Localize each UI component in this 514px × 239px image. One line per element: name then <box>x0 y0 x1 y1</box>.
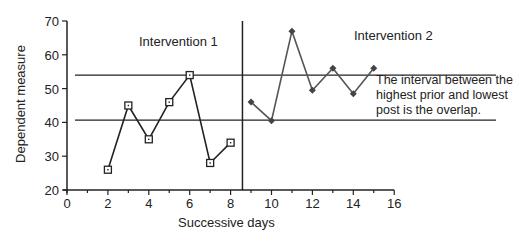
y-tick-label: 70 <box>45 14 59 29</box>
y-tick-label: 50 <box>45 82 59 97</box>
x-tick-label: 2 <box>104 196 111 211</box>
series-line <box>251 31 374 121</box>
y-axis-label: Dependent measure <box>13 45 28 163</box>
diamond-marker <box>288 28 295 35</box>
phase-2-label: Intervention 2 <box>354 28 433 43</box>
single-case-design-chart: 2030405060700246810121416 Intervention 1… <box>0 0 514 239</box>
x-axis-label: Successive days <box>178 215 275 230</box>
axes: 2030405060700246810121416 <box>45 14 402 211</box>
x-tick-label: 4 <box>145 196 152 211</box>
square-marker-dot <box>128 105 129 106</box>
y-tick-label: 20 <box>45 183 59 198</box>
square-marker-dot <box>169 101 170 102</box>
square-marker-dot <box>148 139 149 140</box>
x-tick-label: 10 <box>264 196 278 211</box>
square-marker-dot <box>107 169 108 170</box>
y-tick-label: 40 <box>45 115 59 130</box>
square-marker-dot <box>209 162 210 163</box>
square-marker-dot <box>230 142 231 143</box>
y-tick-label: 60 <box>45 48 59 63</box>
phase-1-label: Intervention 1 <box>139 34 218 49</box>
data-series <box>104 28 377 174</box>
overlap-note-line-1: The interval between the <box>376 73 513 87</box>
x-tick-label: 6 <box>186 196 193 211</box>
x-tick-label: 8 <box>227 196 234 211</box>
series-line <box>108 75 231 170</box>
overlap-note-line-3: post is the overlap. <box>376 103 481 117</box>
x-tick-label: 12 <box>305 196 319 211</box>
x-tick-label: 16 <box>387 196 401 211</box>
x-tick-label: 0 <box>63 196 70 211</box>
x-tick-label: 14 <box>346 196 360 211</box>
overlap-note-line-2: highest prior and lowest <box>376 88 509 102</box>
y-tick-label: 30 <box>45 149 59 164</box>
square-marker-dot <box>189 74 190 75</box>
